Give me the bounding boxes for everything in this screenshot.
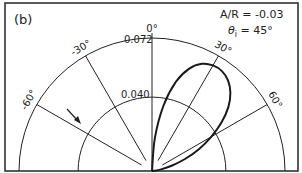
incidence-annotation: θi = 45° [228, 24, 273, 39]
polar-grid [19, 33, 285, 171]
radial-label-0072: 0.072 [124, 34, 153, 45]
spoke--30 [86, 56, 147, 161]
angle-label: 0° [146, 23, 157, 34]
panel-label: (b) [14, 12, 32, 27]
spoke-30 [158, 56, 219, 161]
polar-plot: -60°-30°0°30°60°0.0400.072 (b) A/R = -0.… [0, 0, 302, 173]
data-curve [152, 64, 230, 171]
ratio-annotation: A/R = -0.03 [220, 8, 284, 21]
spoke-60 [162, 105, 267, 166]
spoke--60 [37, 105, 142, 166]
radial-label-0040: 0.040 [121, 89, 150, 100]
intensity-lobe [152, 64, 230, 171]
angle-label: -30° [69, 37, 93, 57]
incident-arrow-icon [67, 109, 81, 124]
angle-label: -60° [18, 88, 38, 112]
